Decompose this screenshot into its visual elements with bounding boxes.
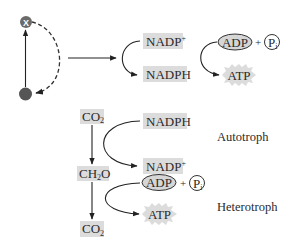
heterotroph-label: Heterotroph [217, 200, 278, 214]
cycle-group: X [19, 16, 60, 101]
heterotroph-adp-label: ADP [146, 175, 172, 190]
autotroph-label: Autotroph [217, 130, 269, 144]
plus-sign: + [255, 36, 261, 48]
autotroph-nadph-label: NADPH [146, 114, 191, 129]
adp-label: ADP [222, 35, 248, 50]
autotroph-reaction: NADPH NADP+ Autotroph [104, 113, 270, 174]
nadp-plus-label: NADP+ [146, 34, 186, 49]
carbon-pathway: CO2 CH2O CO2 [77, 109, 110, 238]
bottom-node [19, 88, 32, 101]
heterotroph-atp-label: ATP [148, 207, 171, 222]
autotroph-heterotroph-diagram: X NADP+ NADPH ADP + Pi ATP CO2 CH2O CO2 … [0, 0, 296, 244]
top-atp-reaction: ADP + Pi ATP [201, 34, 280, 86]
atp-label: ATP [227, 68, 250, 83]
heterotroph-reaction: ADP + Pi ATP Heterotroph [105, 175, 278, 226]
nadph-curve-arrow [104, 121, 140, 166]
autotroph-nadp-plus-label: NADP+ [146, 159, 186, 174]
top-nadp-reaction: NADP+ NADPH [122, 33, 190, 82]
nadp-curve-arrow [122, 41, 140, 75]
atp-curve-arrow [201, 42, 219, 75]
top-node-label: X [23, 18, 29, 28]
nadph-label: NADPH [146, 67, 191, 82]
adp-curve-arrow [105, 183, 140, 214]
heterotroph-plus-sign: + [180, 177, 186, 189]
ch2o-label: CH2O [79, 166, 110, 183]
dashed-return-arc [32, 22, 60, 93]
